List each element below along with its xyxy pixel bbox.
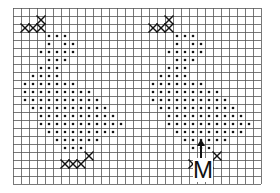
marker-label-m: M	[193, 158, 213, 182]
grid	[13, 8, 262, 185]
stitch-marks	[21, 16, 251, 169]
stitch-chart	[0, 0, 280, 193]
